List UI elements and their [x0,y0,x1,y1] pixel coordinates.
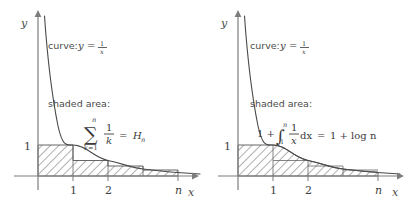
harmonic-number-figure: y x 1 1 2 n curve: y = 1 x shaded area: … [0,0,420,209]
curve-note-denominator: x [100,48,104,56]
sum-result-subscript: n [141,136,145,144]
y-tick-label-1: 1 [224,140,231,153]
integral-differential: dx [300,130,312,141]
x-axis-label: x [188,186,195,199]
curve-annotation: curve: y = 1 x [250,40,309,57]
x-tick-label-n: n [375,184,382,197]
y-axis-label: y [220,17,228,30]
sum-equals: = [119,130,127,141]
sum-numerator: 1 [106,122,112,133]
y-axis-label: y [20,17,28,30]
integral-denominator: x [291,135,297,146]
integral-lead: 1 + [257,128,275,139]
sigma-icon: ∑ [84,123,98,145]
shaded-area-label: shaded area: [250,98,312,109]
curve-note-numerator: 1 [302,40,306,48]
x-tick-label-1: 1 [70,184,77,197]
curve-note-equals: = [289,40,297,51]
sum-formula: n ∑ k=1 1 k = H n [84,116,145,152]
curve-note-lhs: y [279,40,286,51]
x-tick-label-1: 1 [270,184,277,197]
sum-lower-limit: k=1 [84,144,98,152]
curve-annotation: curve: y = 1 x [48,40,107,57]
x-axis-ticks [273,176,378,181]
integral-equals: = [317,130,325,141]
sum-denominator: k [106,135,112,146]
curve-note-prefix: curve: [250,40,280,51]
integral-numerator: 1 [291,122,297,133]
integral-upper-limit: n [283,121,287,129]
shaded-area-label: shaded area: [48,98,110,109]
x-axis-label: x [392,186,399,199]
integral-formula: 1 + ∫ n 1 1 x dx = 1 + log n [257,121,377,146]
curve-note-numerator: 1 [100,40,104,48]
x-tick-label-2: 2 [305,184,312,197]
x-tick-label-2: 2 [105,184,112,197]
integral-result: 1 + log n [330,130,377,141]
panel-left-sum: y x 1 1 2 n curve: y = 1 x shaded area: … [0,0,210,209]
x-tick-label-n: n [175,184,182,197]
panel-right-integral: y x 1 1 2 n curve: y = 1 x shaded area: … [210,0,420,209]
x-axis-ticks [73,176,178,181]
curve-note-prefix: curve: [48,40,78,51]
shaded-step-region [30,130,200,190]
curve-note-equals: = [87,40,95,51]
y-tick-label-1: 1 [24,140,31,153]
curve-note-denominator: x [302,48,306,56]
integral-lower-limit: 1 [280,138,284,146]
curve-note-lhs: y [77,40,84,51]
